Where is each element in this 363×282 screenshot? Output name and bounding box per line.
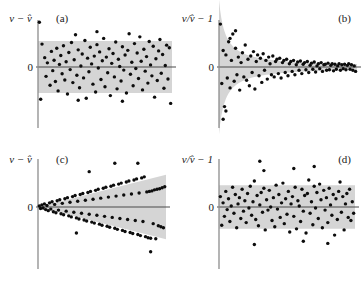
zero-tick-label-b: 0 — [209, 61, 215, 73]
panel-letter-c: (c) — [56, 153, 69, 166]
zero-tick-label-d: 0 — [209, 201, 215, 213]
panel-letter-d: (d) — [338, 153, 351, 166]
y-axis-label-b: v/v̂ − 1 — [182, 12, 213, 24]
panel-letter-b: (b) — [338, 12, 351, 25]
zero-tick-label-c: 0 — [28, 201, 34, 213]
y-axis-label-c: v − v̂ — [9, 153, 32, 165]
panel-b: v/v̂ − 10(b) — [181, 0, 363, 141]
panel-d: v/v̂ − 10(d) — [181, 141, 363, 282]
zero-tick-label-a: 0 — [28, 61, 34, 73]
panel-a: v − v̂0(a) — [0, 0, 181, 141]
panel-letter-a: (a) — [56, 12, 69, 25]
residual-plot-figure: v − v̂0(a)v/v̂ − 10(b)v − v̂0(c)v/v̂ − 1… — [0, 0, 363, 282]
panel-c: v − v̂0(c) — [0, 141, 181, 282]
y-axis-label-d: v/v̂ − 1 — [182, 153, 213, 165]
y-axis-label-a: v − v̂ — [9, 12, 32, 24]
